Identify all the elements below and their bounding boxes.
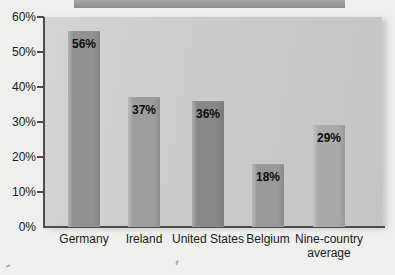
bar-value-label: 37% bbox=[132, 103, 156, 117]
bar-value-label: 36% bbox=[196, 107, 220, 121]
y-axis-tick-label: 10% bbox=[0, 186, 36, 198]
y-axis-tick-label: 0% bbox=[0, 221, 36, 233]
cropped-title-band bbox=[74, 0, 345, 8]
scan-artifact bbox=[6, 264, 10, 268]
y-axis-tick bbox=[37, 121, 44, 123]
scan-artifact bbox=[175, 260, 179, 265]
y-axis-tick bbox=[37, 51, 44, 53]
bar-value-label: 29% bbox=[317, 131, 341, 145]
y-axis-tick-label: 40% bbox=[0, 81, 36, 93]
bar-value-label: 18% bbox=[256, 170, 280, 184]
y-axis-tick bbox=[37, 191, 44, 193]
y-axis-tick-label: 20% bbox=[0, 151, 36, 163]
x-axis-category-label: Nine-country average bbox=[287, 233, 371, 260]
y-axis-tick-label: 60% bbox=[0, 11, 36, 23]
y-axis-tick bbox=[37, 86, 44, 88]
y-axis-tick bbox=[37, 16, 44, 18]
y-axis-tick bbox=[37, 156, 44, 158]
bar-value-label: 56% bbox=[72, 37, 96, 51]
y-axis-tick-label: 50% bbox=[0, 46, 36, 58]
y-axis-tick-label: 30% bbox=[0, 116, 36, 128]
bar-chart-figure: 60%50%40%30%20%10%0%56%Germany37%Ireland… bbox=[0, 0, 395, 275]
bar-germany bbox=[68, 31, 100, 227]
